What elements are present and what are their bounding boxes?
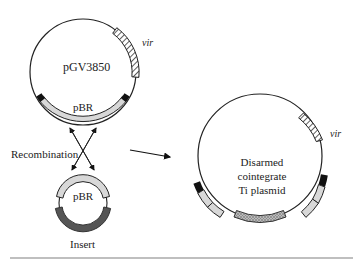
pbr-label-small: pBR xyxy=(73,190,94,202)
vir-segment xyxy=(113,28,139,78)
insert-label: Insert xyxy=(70,238,95,250)
result-label-line3: Ti plasmid xyxy=(239,184,286,196)
pbr-label-left: pBR xyxy=(73,101,94,113)
vir-label-result: vir xyxy=(330,128,341,139)
process-arrow xyxy=(130,150,170,157)
recombination-label: Recombination xyxy=(11,148,79,160)
result-insert-segment xyxy=(234,211,286,223)
result-label-line1: Disarmed xyxy=(241,156,284,168)
result-pbr-right-2 xyxy=(301,199,318,217)
small-plasmid xyxy=(55,175,110,232)
plasmid-diagram: pGV3850 vir pBR Recombination pBR Insert xyxy=(0,0,353,260)
result-vir-segment xyxy=(299,113,323,141)
pgv3850-label: pGV3850 xyxy=(63,60,110,74)
vir-label-left: vir xyxy=(142,37,153,48)
insert-segment xyxy=(55,207,110,232)
result-label-line2: cointegrate xyxy=(238,170,287,182)
